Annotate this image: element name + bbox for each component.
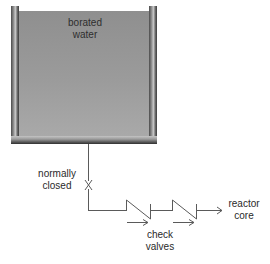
- check-label-line2: valves: [138, 241, 182, 253]
- flow-arrow-2-icon: [173, 220, 194, 226]
- reactor-core-label: reactor core: [222, 198, 266, 222]
- check-valve-1-icon: [127, 200, 151, 219]
- core-label-line2: core: [222, 210, 266, 222]
- normally-closed-label: normally closed: [34, 168, 80, 192]
- normally-closed-valve-icon: [85, 180, 92, 190]
- check-valves-label: check valves: [138, 229, 182, 253]
- check-label-line1: check: [138, 229, 182, 241]
- flow-arrow-1-icon: [127, 220, 148, 226]
- piping-lines: [0, 0, 270, 264]
- valve-label-line1: normally: [34, 168, 80, 180]
- check-valve-2-icon: [173, 200, 197, 219]
- core-label-line1: reactor: [222, 198, 266, 210]
- valve-label-line2: closed: [34, 180, 80, 192]
